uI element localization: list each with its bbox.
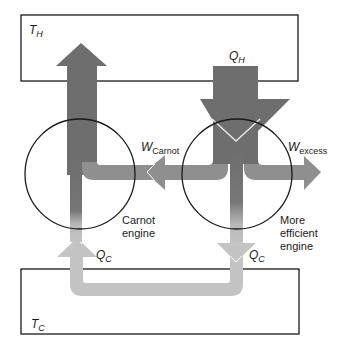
cold-reservoir: [21, 269, 299, 334]
w-excess-label: Wexcess: [288, 141, 327, 154]
cold-reservoir-label: TC: [31, 318, 45, 331]
qc-left-label: QC: [96, 249, 112, 262]
qh-label: QH: [229, 50, 245, 63]
efficient-engine-label: More efficient engine: [280, 214, 318, 253]
carnot-lower-shaft: [70, 160, 82, 242]
diagram-canvas: [0, 0, 338, 349]
carnot-engine-label: Carnot engine: [122, 214, 155, 240]
hot-reservoir-label: TH: [29, 24, 43, 37]
qc-right-label: QC: [249, 249, 265, 262]
w-excess-arrowhead: [304, 156, 321, 190]
w-carnot-label: WCarnot: [141, 141, 179, 154]
efficient-lower-shaft: [230, 150, 243, 245]
